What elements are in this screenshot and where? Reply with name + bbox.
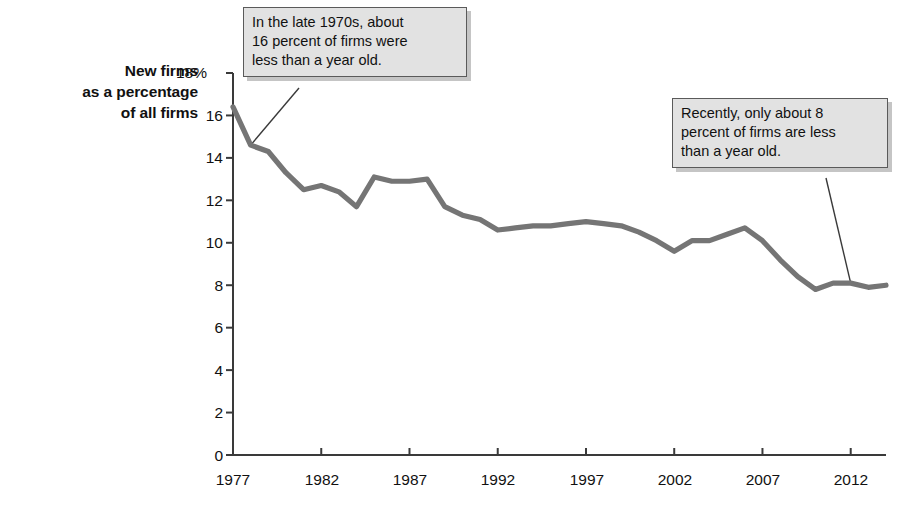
annotation-2-line-2: percent of firms are less: [681, 123, 879, 142]
annotation-callout-2: Recently, only about 8 percent of firms …: [672, 98, 888, 168]
chart-container: New firms as a percentage of all firms 1…: [0, 0, 898, 512]
leader-line-2: [826, 178, 851, 283]
annotation-1-line-1: In the late 1970s, about: [252, 13, 458, 32]
y-axis-ticks: [226, 73, 233, 455]
annotation-2-line-3: than a year old.: [681, 142, 879, 161]
annotation-1-line-2: 16 percent of firms were: [252, 32, 458, 51]
leader-line-1: [251, 88, 299, 145]
annotation-1-line-3: less than a year old.: [252, 51, 458, 70]
annotation-callout-1: In the late 1970s, about 16 percent of f…: [243, 7, 467, 77]
x-axis-ticks: [233, 448, 851, 455]
annotation-2-line-1: Recently, only about 8: [681, 104, 879, 123]
